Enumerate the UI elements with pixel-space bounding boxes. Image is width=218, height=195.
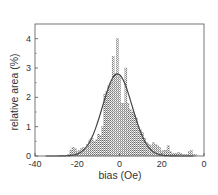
y-axis-label: relative area (%) [8, 53, 20, 130]
histogram-bar [93, 141, 95, 156]
histogram-bar [110, 83, 112, 156]
histogram-bar [97, 134, 99, 156]
histogram-bar [188, 152, 190, 156]
histogram-bar [112, 56, 114, 156]
histogram-bar [133, 115, 135, 156]
histogram-bar [137, 127, 139, 156]
y-tick-label: 1 [26, 122, 31, 132]
x-tick-label: 20 [157, 159, 167, 169]
histogram-bar [114, 74, 116, 156]
histogram-bar [95, 140, 97, 156]
x-tick-label: -20 [71, 159, 84, 169]
histogram-bar [167, 146, 169, 156]
x-axis-label: bias (Oe) [98, 169, 141, 181]
histogram-bar [129, 109, 131, 156]
histogram-bar [127, 103, 129, 156]
histogram-bar [190, 150, 192, 156]
histogram-bar [102, 127, 104, 156]
x-tick-label: -40 [28, 159, 41, 169]
histogram-bar [116, 39, 118, 156]
x-tick-label: 0 [117, 159, 122, 169]
histogram-bar [121, 103, 123, 156]
histogram-bar [108, 86, 110, 156]
y-tick-label: 2 [26, 92, 31, 102]
histogram-bar [154, 144, 156, 156]
y-axis: 01234 [26, 34, 38, 161]
histogram-bars [68, 39, 197, 156]
y-tick-label: 4 [26, 34, 31, 44]
histogram-bar [85, 149, 87, 156]
y-tick-label: 3 [26, 63, 31, 73]
x-tick-label: 0 [201, 159, 206, 169]
histogram-bar [91, 138, 93, 156]
histogram-bar [99, 135, 101, 156]
histogram-bar [123, 103, 125, 156]
histogram-bar [131, 112, 133, 156]
histogram-bar [125, 68, 127, 156]
histogram-bar [118, 77, 120, 156]
histogram-bar [106, 91, 108, 156]
histogram-bar [152, 143, 154, 156]
histogram-chart: 01234 -40-200200 bias (Oe) relative area… [0, 0, 218, 195]
